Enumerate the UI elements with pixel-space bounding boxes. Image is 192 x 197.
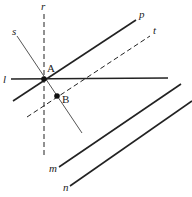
line-n xyxy=(70,101,192,186)
line-label-s: s xyxy=(12,25,16,37)
line-label-n: n xyxy=(63,181,69,193)
line-l xyxy=(11,78,168,79)
line-s xyxy=(17,36,82,133)
line-t xyxy=(27,36,150,117)
point-A xyxy=(41,76,47,82)
line-label-m: m xyxy=(49,162,57,174)
line-label-t: t xyxy=(153,24,157,36)
geometry-diagram: rlptsmnAB xyxy=(0,0,192,197)
point-label-A: A xyxy=(47,62,55,74)
line-label-l: l xyxy=(3,73,6,85)
line-p xyxy=(13,20,136,101)
line-label-p: p xyxy=(138,8,145,20)
point-B xyxy=(54,93,60,99)
line-label-r: r xyxy=(41,0,46,12)
point-label-B: B xyxy=(62,93,69,105)
